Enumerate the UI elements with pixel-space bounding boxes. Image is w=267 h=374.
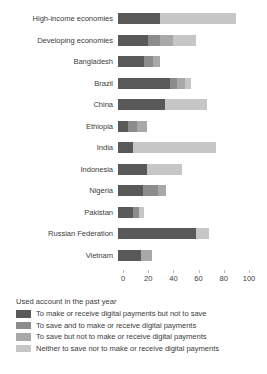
bar-row: Bangladesh [0,51,267,73]
bar-track [118,8,244,30]
bar-segment [118,250,141,261]
bar-segment [160,13,237,24]
stacked-bar [118,78,191,89]
stacked-bar [118,207,144,218]
bar-track [118,245,244,267]
bar-segment [160,35,174,46]
legend-items: To make or receive digital payments but … [16,308,264,354]
category-label: Brazil [0,79,118,88]
bar-track [118,94,244,116]
legend-item[interactable]: To save and to make or receive digital p… [16,320,264,332]
bar-row: High-income economies [0,8,267,30]
category-label: High-income economies [0,14,118,23]
legend-item[interactable]: Neither to save nor to make or receive d… [16,343,264,355]
bar-segment [137,121,147,132]
bar-segment [165,99,208,110]
category-label: Vietnam [0,251,118,260]
bar-segment [128,121,137,132]
bar-track [118,51,244,73]
bar-row: Pakistan [0,202,267,224]
stacked-bar [118,228,209,239]
legend-item-label: To save and to make or receive digital p… [36,321,196,330]
axis-tick [148,270,149,273]
bar-row: Nigeria [0,180,267,202]
axis-tick-label: 80 [220,274,228,283]
legend-item-label: To save but not to make or receive digit… [36,332,207,341]
stacked-bar [118,13,236,24]
bar-segment [118,35,148,46]
legend-swatch-icon [16,345,31,353]
category-label: Developing economies [0,36,118,45]
legend-item[interactable]: To make or receive digital payments but … [16,308,264,320]
stacked-bar [118,185,166,196]
stacked-bar [118,56,160,67]
axis-tick-label: 0 [121,274,125,283]
bar-row: Developing economies [0,30,267,52]
legend: Used account in the past year To make or… [16,296,264,354]
axis-tick [123,270,124,273]
axis-tick [224,270,225,273]
axis-tick [199,270,200,273]
bar-segment [139,207,144,218]
category-label: India [0,143,118,152]
bar-segment [118,13,160,24]
stacked-bar [118,250,152,261]
stacked-bar-chart: High-income economiesDeveloping economie… [0,0,267,374]
bar-segment [144,56,153,67]
bar-rows: High-income economiesDeveloping economie… [0,8,267,266]
bar-track [118,137,244,159]
bar-segment [153,56,159,67]
bar-row: Brazil [0,73,267,95]
bar-track [118,73,244,95]
bar-segment [141,250,152,261]
bar-segment [133,142,216,153]
axis-tick-label: 60 [194,274,202,283]
bar-segment [185,78,191,89]
bar-segment [143,185,158,196]
category-label: Ethiopia [0,122,118,131]
bar-row: India [0,137,267,159]
bar-track [118,202,244,224]
bar-segment [147,164,182,175]
stacked-bar [118,35,196,46]
axis-tick-label: 40 [169,274,177,283]
legend-item-label: Neither to save nor to make or receive d… [36,344,219,353]
legend-item[interactable]: To save but not to make or receive digit… [16,331,264,343]
bar-segment [118,78,170,89]
legend-swatch-icon [16,322,31,330]
bar-row: Ethiopia [0,116,267,138]
legend-swatch-icon [16,333,31,341]
axis-tick [249,270,250,273]
bar-track [118,116,244,138]
category-label: Indonesia [0,165,118,174]
bar-segment [196,228,209,239]
bar-track [118,30,244,52]
bar-segment [118,56,144,67]
bar-track [118,223,244,245]
bar-segment [118,228,196,239]
bar-segment [158,185,166,196]
axis-tick-label: 20 [144,274,152,283]
category-label: China [0,100,118,109]
bar-row: Russian Federation [0,223,267,245]
plot-area: High-income economiesDeveloping economie… [0,8,267,290]
bar-segment [118,142,133,153]
bar-segment [118,185,143,196]
bar-segment [177,78,185,89]
category-label: Russian Federation [0,229,118,238]
bar-track [118,180,244,202]
bar-segment [118,207,133,218]
stacked-bar [118,121,147,132]
stacked-bar [118,99,207,110]
category-label: Bangladesh [0,57,118,66]
legend-title: Used account in the past year [16,296,264,307]
legend-item-label: To make or receive digital payments but … [36,309,207,318]
stacked-bar [118,142,216,153]
bar-segment [148,35,159,46]
bar-row: Indonesia [0,159,267,181]
bar-track [118,159,244,181]
axis-tick-label: 100 [243,274,256,283]
bar-segment [118,164,147,175]
legend-swatch-icon [16,310,31,318]
stacked-bar [118,164,182,175]
